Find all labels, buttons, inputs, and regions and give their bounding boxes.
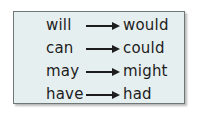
verb-change-box: will would can could may might have had	[13, 11, 185, 104]
right-arrow-icon	[86, 25, 116, 27]
verb-from: can	[46, 38, 74, 58]
right-arrow-icon	[86, 94, 116, 96]
right-arrow-icon	[86, 48, 116, 50]
verb-to: had	[123, 84, 152, 104]
verb-row: will would	[14, 15, 184, 35]
verb-from: may	[46, 61, 79, 81]
right-arrow-icon	[86, 71, 116, 73]
verb-to: could	[123, 38, 165, 58]
verb-row: can could	[14, 38, 184, 58]
verb-to: would	[123, 15, 169, 35]
verb-from: have	[46, 84, 84, 104]
verb-to: might	[123, 61, 168, 81]
verb-row: have had	[14, 84, 184, 104]
verb-from: will	[46, 15, 72, 35]
verb-row: may might	[14, 61, 184, 81]
